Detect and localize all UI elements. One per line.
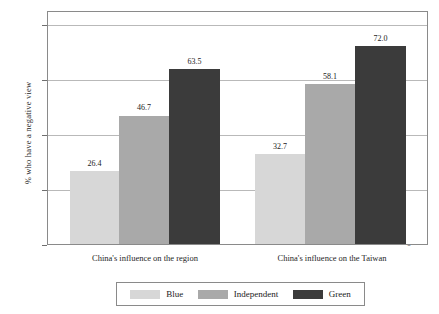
bar-taiwan-independent — [305, 84, 355, 244]
value-label-region-independent: 46.7 — [119, 103, 169, 112]
value-label-taiwan-blue: 32.7 — [255, 142, 305, 151]
legend-swatch-independent-icon — [198, 290, 228, 299]
legend-item-independent: Independent — [198, 289, 278, 299]
value-label-region-green: 63.5 — [169, 57, 220, 66]
legend-item-blue: Blue — [130, 289, 183, 299]
legend: Blue Independent Green — [116, 282, 365, 306]
y-tick-mark-0 — [42, 245, 47, 246]
bar-region-independent — [119, 116, 169, 244]
gridline-80 — [48, 25, 427, 26]
legend-item-green: Green — [293, 289, 351, 299]
legend-swatch-green-icon — [293, 290, 323, 299]
value-label-taiwan-green: 72.0 — [355, 34, 406, 43]
y-axis-title: % who have a negative view — [23, 18, 33, 248]
legend-label-blue: Blue — [166, 289, 183, 299]
x-group-label-region: China's influence on the region — [45, 253, 245, 263]
bar-taiwan-green — [355, 46, 406, 244]
legend-swatch-blue-icon — [130, 290, 160, 299]
value-label-taiwan-independent: 58.1 — [305, 72, 355, 81]
legend-label-green: Green — [329, 289, 351, 299]
legend-label-independent: Independent — [234, 289, 278, 299]
bar-chart: % who have a negative view 80 60 40 20 0… — [0, 0, 439, 314]
value-label-region-blue: 26.4 — [70, 159, 119, 168]
x-group-label-taiwan: China's influence on the Taiwan — [232, 253, 432, 263]
bar-region-green — [169, 69, 220, 244]
bar-region-blue — [70, 171, 119, 244]
bar-taiwan-blue — [255, 154, 305, 244]
plot-area: 26.4 46.7 63.5 32.7 58.1 72.0 — [47, 11, 428, 245]
